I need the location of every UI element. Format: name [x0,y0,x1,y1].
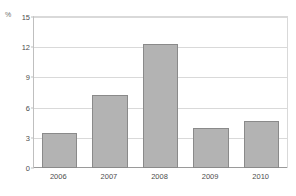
bar-2007 [92,95,127,168]
bar-chart: Inflation % 03691215 2006200720082009201… [0,0,296,196]
y-tick-label-12: 12 [22,43,30,52]
x-tick-label-2006: 2006 [33,172,84,181]
bar-2008 [143,44,178,168]
bar-2009 [193,128,228,168]
bar-2010 [244,121,279,168]
x-tick-label-2007: 2007 [84,172,135,181]
y-tick-label-6: 6 [26,103,30,112]
plot-area: 03691215 [33,16,288,168]
y-tick-label-9: 9 [26,73,30,82]
y-tick-label-15: 15 [22,13,30,22]
y-tick-label-0: 0 [26,164,30,173]
x-tick-label-2009: 2009 [185,172,236,181]
x-tick-label-2008: 2008 [134,172,185,181]
bars-group [34,17,287,168]
x-tick-label-2010: 2010 [235,172,286,181]
bar-2006 [42,133,77,168]
y-tick-label-3: 3 [26,133,30,142]
y-axis-unit-label: % [5,11,11,18]
